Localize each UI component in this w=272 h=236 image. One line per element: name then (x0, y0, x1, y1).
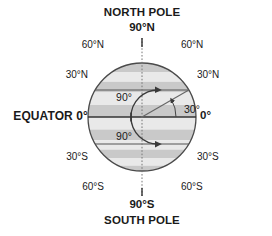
label-left-60s: 60°S (82, 182, 104, 192)
equator-label: EQUATOR 0° (13, 110, 88, 122)
angle-label-30: 30° (184, 104, 200, 115)
south-pole-label: SOUTH POLE (104, 215, 180, 227)
south-pole-degree-label: 90°S (129, 199, 154, 211)
label-right-60n: 60°N (181, 40, 203, 50)
arc-label-south-90: 90° (116, 131, 132, 142)
label-right-30s: 30°S (197, 152, 219, 162)
north-pole-label: NORTH POLE (104, 7, 180, 19)
label-left-30n: 30°N (66, 70, 88, 80)
arc-label-north-90: 90° (116, 92, 132, 103)
label-right-30n: 30°N (197, 70, 219, 80)
label-right-equator-zero: 0° (200, 110, 211, 122)
latitude-globe-diagram: NORTH POLE 90°N 90°S SOUTH POLE 60°N 30°… (0, 0, 272, 236)
label-right-60s: 60°S (181, 182, 203, 192)
north-pole-degree-label: 90°N (129, 22, 155, 34)
label-left-30s: 30°S (66, 152, 88, 162)
label-left-60n: 60°N (82, 40, 104, 50)
